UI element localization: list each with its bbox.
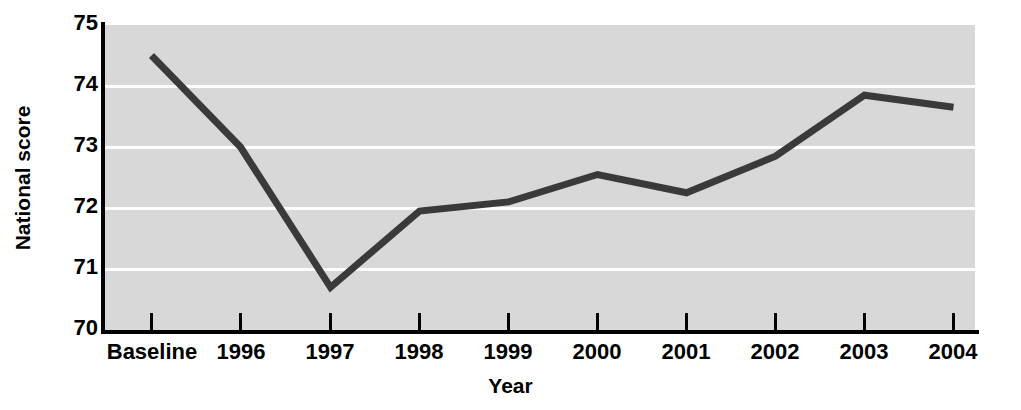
x-tick-1998 <box>418 313 421 330</box>
x-tick-1997 <box>329 313 332 330</box>
x-tick-label-1996: 1996 <box>217 340 266 364</box>
y-tick-label-75: 75 <box>54 12 98 34</box>
x-tick-1999 <box>507 313 510 330</box>
x-tick-2004 <box>952 313 955 330</box>
y-tick-label-71: 71 <box>54 256 98 278</box>
x-tick-label-baseline: Baseline <box>107 340 198 364</box>
x-tick-label-1997: 1997 <box>306 340 355 364</box>
x-axis-line <box>101 330 979 334</box>
x-tick-label-1999: 1999 <box>484 340 533 364</box>
y-tick-label-74: 74 <box>54 73 98 95</box>
y-axis-title: National score <box>11 73 35 283</box>
y-tick-label-70: 70 <box>54 317 98 339</box>
x-tick-label-2000: 2000 <box>573 340 622 364</box>
y-axis-tick-labels: 75 74 73 72 71 70 <box>52 0 98 410</box>
x-tick-label-2004: 2004 <box>929 340 978 364</box>
x-tick-1996 <box>239 313 242 330</box>
y-tick-label-72: 72 <box>54 195 98 217</box>
x-tick-label-2003: 2003 <box>840 340 889 364</box>
x-tick-label-2001: 2001 <box>662 340 711 364</box>
plot-area <box>105 25 975 330</box>
x-tick-2002 <box>774 313 777 330</box>
y-tick-label-73: 73 <box>54 134 98 156</box>
x-tick-baseline <box>150 313 153 330</box>
x-axis-title: Year <box>0 374 1021 398</box>
x-tick-label-1998: 1998 <box>395 340 444 364</box>
x-tick-2001 <box>685 313 688 330</box>
x-tick-2003 <box>863 313 866 330</box>
x-tick-2000 <box>596 313 599 330</box>
line-chart: National score 75 74 73 72 71 70 Baselin… <box>0 0 1021 410</box>
data-line-series <box>105 25 975 330</box>
x-tick-label-2002: 2002 <box>751 340 800 364</box>
y-axis-line <box>101 22 105 333</box>
